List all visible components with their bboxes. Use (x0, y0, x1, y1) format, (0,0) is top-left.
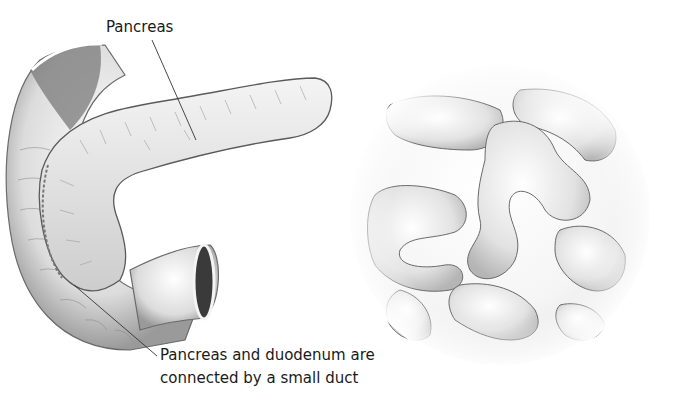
duct-label-line-1: Pancreas and duodenum are (160, 344, 375, 367)
duct-label: Pancreas and duodenum are connected by a… (160, 344, 375, 390)
pancreas-label: Pancreas (106, 16, 173, 39)
small-intestine (345, 60, 655, 370)
duct-label-line-2: connected by a small duct (160, 367, 375, 390)
